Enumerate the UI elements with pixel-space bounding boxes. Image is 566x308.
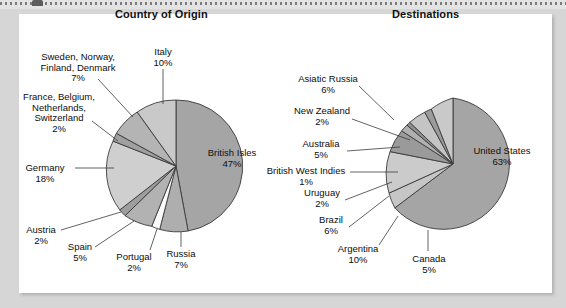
- label-portugal-name: Portugal: [110, 252, 158, 263]
- label-british-isles-pct: 47%: [196, 158, 268, 169]
- label-austria-pct: 2%: [20, 236, 62, 247]
- label-canada-name: Canada: [406, 254, 452, 265]
- label-germany-name: Germany: [17, 163, 73, 174]
- label-united-states-pct: 63%: [464, 156, 540, 167]
- label-italy-pct: 10%: [133, 58, 193, 69]
- page-mark-icon: [32, 0, 43, 6]
- label-italy: Italy 10%: [133, 47, 193, 68]
- label-italy-name: Italy: [133, 47, 193, 58]
- label-canada: Canada 5%: [406, 254, 452, 275]
- label-new-zealand-pct: 2%: [288, 117, 356, 128]
- label-uruguay: Uruguay 2%: [297, 188, 347, 209]
- label-new-zealand: New Zealand 2%: [288, 106, 356, 127]
- label-brazil: Brazil 6%: [310, 215, 352, 236]
- label-portugal-pct: 2%: [110, 263, 158, 274]
- label-australia: Australia 5%: [294, 139, 348, 160]
- label-british-west-indies-name: British West Indies: [262, 166, 350, 177]
- label-portugal: Portugal 2%: [110, 252, 158, 273]
- label-russia-name: Russia: [160, 249, 202, 260]
- label-russia: Russia 7%: [160, 249, 202, 270]
- label-benelux-line1: France, Belgium,: [11, 92, 107, 103]
- label-argentina: Argentina 10%: [330, 244, 386, 265]
- label-british-isles: British Isles 47%: [196, 147, 268, 169]
- label-asiatic-russia-pct: 6%: [294, 85, 362, 96]
- label-germany-pct: 18%: [17, 174, 73, 185]
- label-uruguay-name: Uruguay: [297, 188, 347, 199]
- scanned-page: Country of Origin Destinations: [0, 0, 566, 308]
- label-austria: Austria 2%: [20, 225, 62, 246]
- label-spain-name: Spain: [62, 242, 98, 253]
- chart-title-country-of-origin: Country of Origin: [115, 8, 208, 20]
- label-germany: Germany 18%: [17, 163, 73, 184]
- label-nordics-line1: Sweden, Norway,: [24, 52, 132, 63]
- label-argentina-pct: 10%: [330, 255, 386, 266]
- label-nordics-pct: 7%: [24, 73, 132, 84]
- label-uruguay-pct: 2%: [297, 199, 347, 210]
- label-australia-name: Australia: [294, 139, 348, 150]
- label-united-states: United States 63%: [464, 145, 540, 167]
- label-spain-pct: 5%: [62, 253, 98, 264]
- label-austria-name: Austria: [20, 225, 62, 236]
- label-british-west-indies-pct: 1%: [262, 177, 350, 188]
- label-russia-pct: 7%: [160, 260, 202, 271]
- label-brazil-pct: 6%: [310, 226, 352, 237]
- label-australia-pct: 5%: [294, 150, 348, 161]
- label-british-isles-name: British Isles: [196, 147, 268, 158]
- label-argentina-name: Argentina: [330, 244, 386, 255]
- label-benelux-line3: Switzerland: [11, 113, 107, 124]
- label-canada-pct: 5%: [406, 265, 452, 276]
- label-sweden-norway-finland-denmark: Sweden, Norway, Finland, Denmark 7%: [24, 52, 132, 84]
- label-france-belgium-netherlands-switzerland: France, Belgium, Netherlands, Switzerlan…: [11, 92, 107, 134]
- chart-title-destinations: Destinations: [392, 8, 459, 20]
- label-united-states-name: United States: [464, 145, 540, 156]
- label-brazil-name: Brazil: [310, 215, 352, 226]
- label-new-zealand-name: New Zealand: [288, 106, 356, 117]
- label-spain: Spain 5%: [62, 242, 98, 263]
- label-asiatic-russia: Asiatic Russia 6%: [294, 74, 362, 95]
- label-british-west-indies: British West Indies 1%: [262, 166, 350, 187]
- label-asiatic-russia-name: Asiatic Russia: [294, 74, 362, 85]
- dotted-rule: [0, 2, 566, 5]
- label-benelux-pct: 2%: [11, 124, 107, 135]
- page-top-bleed-strip: [0, 0, 566, 9]
